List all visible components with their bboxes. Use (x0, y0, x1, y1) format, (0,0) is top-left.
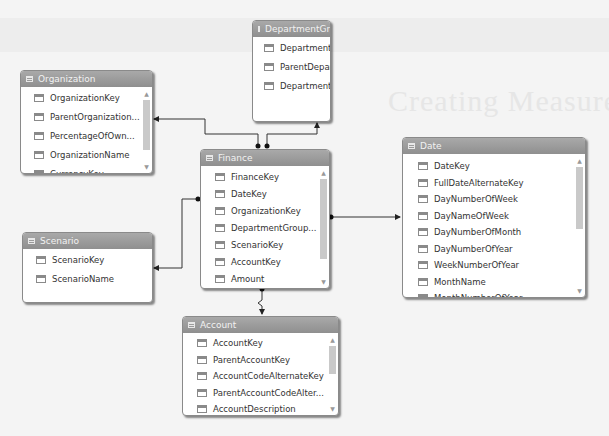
column-icon (34, 151, 44, 159)
scroll-thumb[interactable] (576, 167, 583, 229)
scroll-down-icon[interactable]: ▼ (328, 405, 337, 413)
table-header[interactable]: Scenario (23, 233, 152, 249)
column-icon (418, 261, 428, 269)
column-icon (215, 224, 225, 232)
column-icon (215, 241, 225, 249)
column-icon (215, 173, 225, 181)
scroll-up-icon[interactable]: ▲ (575, 157, 584, 165)
column-item[interactable]: AccountCodeAlternateKey (183, 368, 338, 385)
scroll-down-icon[interactable]: ▼ (575, 287, 584, 295)
column-item[interactable]: FullDateAlternateKey (403, 175, 585, 192)
column-icon (418, 179, 428, 187)
column-icon (418, 195, 428, 203)
column-icon (418, 294, 428, 298)
column-icon (34, 170, 44, 175)
column-item[interactable]: ScenarioKey (23, 250, 152, 269)
column-item[interactable]: PercentageOfOwn... (21, 126, 152, 145)
column-icon (264, 63, 274, 71)
table-finance[interactable]: Finance FinanceKey DateKey OrganizationK… (200, 149, 330, 289)
column-icon (36, 275, 46, 283)
column-item[interactable]: ParentDepartmentGr... (253, 57, 330, 76)
table-icon (408, 143, 415, 149)
column-icon (197, 339, 207, 347)
rel-finance-organization (154, 119, 258, 148)
column-icon (418, 162, 428, 170)
scroll-thumb[interactable] (329, 346, 336, 374)
scroll-up-icon[interactable]: ▲ (319, 169, 328, 177)
column-icon (418, 245, 428, 253)
column-icon (418, 278, 428, 286)
column-icon (264, 44, 274, 52)
scrollbar[interactable]: ▲ ▼ (328, 336, 337, 413)
table-icon (26, 76, 33, 82)
column-item[interactable]: DayNameOfWeek (403, 208, 585, 225)
table-scenario[interactable]: Scenario ScenarioKey ScenarioName (22, 232, 153, 303)
column-item[interactable]: DateKey (403, 158, 585, 175)
column-item[interactable]: ScenarioName (23, 269, 152, 288)
column-icon (36, 256, 46, 264)
scroll-down-icon[interactable]: ▼ (319, 278, 328, 286)
table-header[interactable]: DepartmentGroup (253, 21, 330, 37)
column-item[interactable]: OrganizationKey (21, 88, 152, 107)
table-organization[interactable]: Organization OrganizationKey ParentOrgan… (20, 70, 153, 174)
table-icon (188, 322, 195, 328)
table-header[interactable]: Account (183, 317, 338, 333)
scrollbar[interactable]: ▲ ▼ (575, 157, 584, 295)
column-icon (34, 113, 44, 121)
rel-finance-account (258, 290, 262, 314)
column-icon (215, 190, 225, 198)
column-item[interactable]: OrganizationKey (201, 202, 329, 219)
column-item[interactable]: OrganizationName (21, 145, 152, 164)
column-item[interactable]: AccountDescription (183, 401, 338, 416)
scrollbar[interactable]: ▲ ▼ (319, 169, 328, 286)
table-account[interactable]: Account AccountKey ParentAccountKey Acco… (182, 316, 339, 416)
table-icon (206, 155, 213, 161)
column-icon (418, 228, 428, 236)
table-header[interactable]: Date (403, 138, 585, 154)
column-icon (197, 372, 207, 380)
column-icon (197, 356, 207, 364)
column-icon (264, 82, 274, 90)
rel-finance-scenario (154, 199, 198, 268)
column-item[interactable]: DateKey (201, 185, 329, 202)
column-item[interactable]: ParentAccountKey (183, 352, 338, 369)
column-item[interactable]: ScenarioKey (201, 236, 329, 253)
table-department-group[interactable]: DepartmentGroup DepartmentGroupKey Paren… (252, 20, 331, 122)
column-icon (215, 207, 225, 215)
table-date[interactable]: Date DateKey FullDateAlternateKey DayNum… (402, 137, 586, 298)
scroll-thumb[interactable] (320, 179, 327, 259)
table-icon (258, 26, 260, 32)
column-icon (34, 132, 44, 140)
column-item[interactable]: DayNumberOfMonth (403, 224, 585, 241)
table-header[interactable]: Organization (21, 71, 152, 87)
column-item[interactable]: MonthNumberOfYear (403, 290, 585, 298)
column-icon (215, 275, 225, 283)
column-icon (197, 405, 207, 413)
column-icon (215, 258, 225, 266)
scroll-up-icon[interactable]: ▲ (328, 336, 337, 344)
column-item[interactable]: DayNumberOfWeek (403, 191, 585, 208)
column-item[interactable]: MonthName (403, 274, 585, 291)
column-item[interactable]: WeekNumberOfYear (403, 257, 585, 274)
column-item[interactable]: AccountKey (201, 253, 329, 270)
column-icon (418, 212, 428, 220)
rel-finance-departmentgroup (267, 123, 317, 148)
column-item[interactable]: DepartmentGroup... (201, 219, 329, 236)
scrollbar[interactable]: ▲ ▼ (142, 90, 151, 171)
column-item[interactable]: DepartmentGroupNa... (253, 76, 330, 95)
column-icon (197, 389, 207, 397)
column-icon (34, 94, 44, 102)
column-item[interactable]: Amount (201, 270, 329, 287)
scroll-thumb[interactable] (143, 100, 150, 150)
column-item[interactable]: ParentOrganization... (21, 107, 152, 126)
column-item[interactable]: FinanceKey (201, 168, 329, 185)
scroll-up-icon[interactable]: ▲ (142, 90, 151, 98)
table-icon (28, 238, 35, 244)
column-item[interactable]: DepartmentGroupKey (253, 38, 330, 57)
column-item[interactable]: CurrencyKey (21, 164, 152, 174)
column-item[interactable]: AccountKey (183, 335, 338, 352)
column-item[interactable]: DayNumberOfYear (403, 241, 585, 258)
column-item[interactable]: ParentAccountCodeAlter... (183, 385, 338, 402)
scroll-down-icon[interactable]: ▼ (142, 163, 151, 171)
table-header[interactable]: Finance (201, 150, 329, 166)
